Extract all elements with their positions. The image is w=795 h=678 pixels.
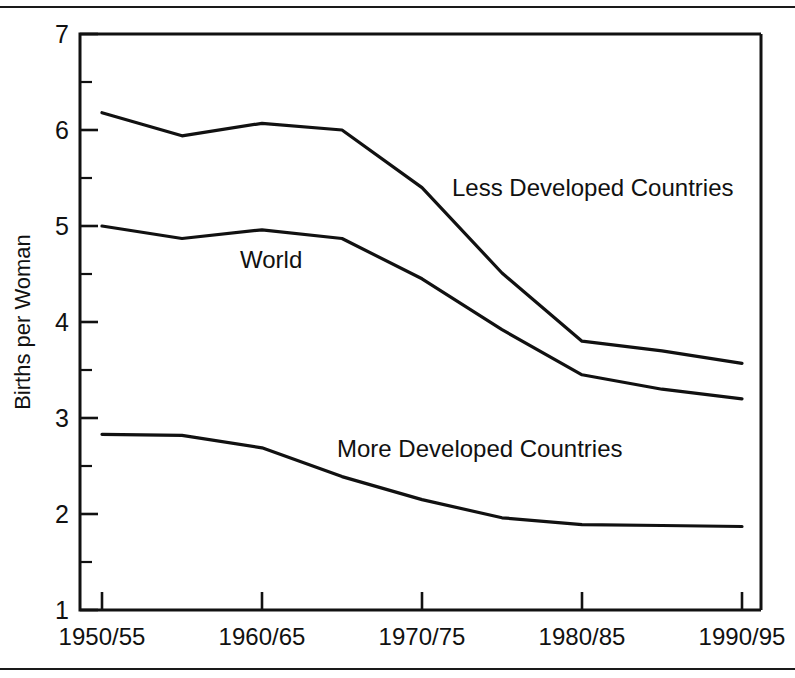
- y-tick-label-1: 1: [55, 596, 69, 624]
- series-label-less-developed-countries: Less Developed Countries: [452, 174, 734, 201]
- line-chart: 7 6 5 4 3 2 1 1950/55 1960/65 1970/75 19…: [0, 0, 795, 678]
- y-tick-label-4: 4: [55, 308, 69, 336]
- y-axis-title: Births per Woman: [10, 234, 35, 410]
- y-tick-label-3: 3: [55, 404, 69, 432]
- figure-container: 7 6 5 4 3 2 1 1950/55 1960/65 1970/75 19…: [0, 0, 795, 678]
- x-tick-label-1960-65: 1960/65: [219, 623, 306, 650]
- series-label-world: World: [240, 246, 302, 273]
- y-tick-label-2: 2: [55, 500, 69, 528]
- x-tick-label-1990-95: 1990/95: [699, 623, 786, 650]
- series-line-world: [102, 226, 742, 399]
- x-tick-label-1970-75: 1970/75: [379, 623, 466, 650]
- series-label-more-developed-countries: More Developed Countries: [337, 435, 622, 462]
- y-axis-major-ticks: [80, 34, 98, 610]
- x-axis-ticks: [102, 592, 742, 610]
- y-tick-label-5: 5: [55, 212, 69, 240]
- plot-frame: [80, 34, 761, 610]
- y-tick-label-6: 6: [55, 116, 69, 144]
- y-tick-label-7: 7: [55, 20, 69, 48]
- x-tick-label-1950-55: 1950/55: [59, 623, 146, 650]
- x-tick-label-1980-85: 1980/85: [539, 623, 626, 650]
